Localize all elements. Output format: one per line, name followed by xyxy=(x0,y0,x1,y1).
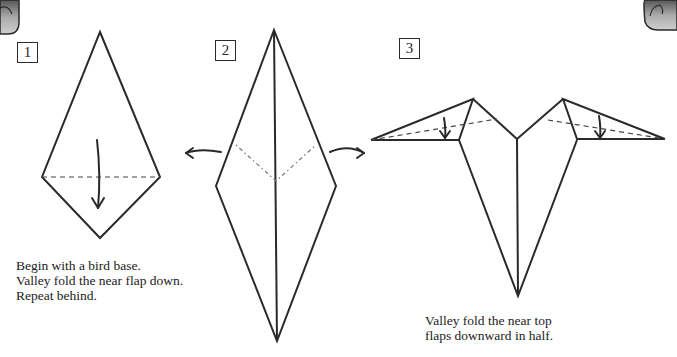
fold-down-arrow-icon xyxy=(92,140,104,208)
step1-caption: Begin with a bird base. Valley fold the … xyxy=(16,258,183,303)
origami-diagram xyxy=(0,0,677,357)
step-number-1: 1 xyxy=(17,42,38,63)
page-corner-tab-icon-right xyxy=(644,0,677,30)
step-number-2: 2 xyxy=(215,40,236,61)
step1-figure xyxy=(42,32,160,238)
page-corner-tab-icon-left xyxy=(0,0,19,34)
open-right-arrow-icon xyxy=(330,148,364,158)
step2-figure xyxy=(216,30,336,341)
fold-down-arrow-icon-left xyxy=(440,118,450,138)
fold-down-arrow-icon-right xyxy=(595,116,605,138)
step3-figure xyxy=(371,99,665,296)
open-left-arrow-icon xyxy=(186,148,221,158)
step3-caption: Valley fold the near top flaps downward … xyxy=(425,313,553,343)
step-number-3: 3 xyxy=(399,38,420,59)
